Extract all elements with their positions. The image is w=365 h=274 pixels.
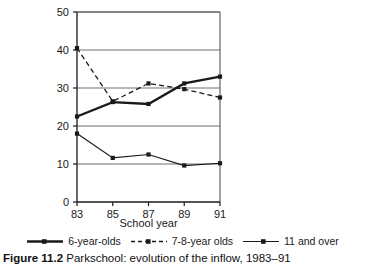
x-axis-title: School year (119, 217, 177, 229)
gridlines (77, 12, 220, 164)
data-point-2-4 (218, 161, 222, 165)
data-point-2-1 (111, 156, 115, 160)
y-tick-label-40: 40 (57, 44, 69, 56)
data-point-1-2 (146, 81, 150, 85)
y-tick-label-30: 30 (57, 82, 69, 94)
x-tick-label-83: 83 (71, 208, 83, 220)
y-axis-tick-labels: 01020304050 (57, 6, 69, 208)
legend-label-6-year-olds: 6-year-olds (68, 236, 121, 247)
y-tick-label-20: 20 (57, 120, 69, 132)
x-tick-label-91: 91 (214, 208, 226, 220)
data-point-0-3 (182, 81, 186, 85)
y-tick-label-50: 50 (57, 6, 69, 18)
legend-item-11-and-over[interactable]: 11 and over (242, 236, 339, 247)
y-tick-label-10: 10 (57, 158, 69, 170)
figure-caption-number: Figure 11.2 (3, 252, 63, 264)
series-lines (77, 48, 220, 165)
data-point-1-0 (75, 46, 79, 50)
figure-caption: Figure 11.2 Parkschool: evolution of the… (3, 252, 363, 265)
data-point-2-0 (75, 132, 79, 136)
figure-11-2: 01020304050 8385878991 School year 6-yea… (0, 0, 365, 274)
legend-label-7-8-year-olds: 7-8-year olds (172, 236, 233, 247)
data-point-0-0 (75, 114, 79, 118)
y-tick-label-0: 0 (63, 196, 69, 208)
data-point-2-2 (146, 152, 150, 156)
data-point-0-2 (146, 102, 150, 106)
data-point-1-4 (218, 95, 222, 99)
line-chart: 01020304050 8385878991 School year (0, 0, 365, 232)
chart-legend: 6-year-olds 7-8-year olds 11 and over (0, 232, 365, 250)
x-tick-label-89: 89 (178, 208, 190, 220)
data-point-2-3 (182, 163, 186, 167)
legend-swatch-solid-thick-icon (26, 236, 64, 247)
series-line-2 (77, 134, 220, 166)
series-markers (75, 46, 222, 168)
chart-plot-area: 01020304050 8385878991 School year (0, 0, 365, 232)
legend-item-6-year-olds[interactable]: 6-year-olds (26, 236, 121, 247)
legend-swatch-solid-thin-icon (242, 236, 280, 247)
x-tick-label-85: 85 (107, 208, 119, 220)
legend-item-7-8-year-olds[interactable]: 7-8-year olds (130, 236, 233, 247)
figure-caption-text: Parkschool: evolution of the inflow, 198… (63, 252, 291, 264)
data-point-1-3 (182, 87, 186, 91)
data-point-0-4 (218, 75, 222, 79)
legend-label-11-and-over: 11 and over (284, 236, 339, 247)
legend-swatch-dashed-icon (130, 236, 168, 247)
data-point-1-1 (111, 99, 115, 103)
series-line-1 (77, 48, 220, 101)
